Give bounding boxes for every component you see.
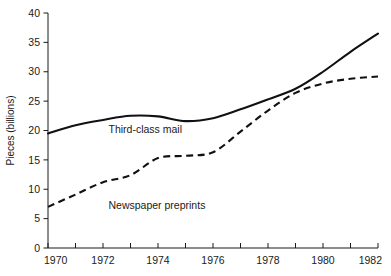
y-axis: 0510152025303540 <box>28 7 48 254</box>
series-label-2: Newspaper preprints <box>109 199 206 211</box>
series-line-2 <box>48 76 378 206</box>
y-tick-label: 35 <box>28 36 40 48</box>
x-tick-label: 1972 <box>91 254 115 266</box>
series-annotations: Third-class mailNewspaper preprints <box>109 123 206 211</box>
chart-canvas: 0510152025303540 19701972197419761978198… <box>0 0 391 276</box>
series-layer <box>48 34 378 207</box>
x-tick-label: 1976 <box>201 254 225 266</box>
y-tick-label: 10 <box>28 183 40 195</box>
x-tick-label: 1982 <box>359 254 383 266</box>
y-tick-label: 20 <box>28 124 40 136</box>
y-tick-label: 40 <box>28 7 40 19</box>
y-axis-title: Pieces (billions) <box>5 95 16 165</box>
y-tick-label: 15 <box>28 154 40 166</box>
y-tick-label: 5 <box>34 212 40 224</box>
x-tick-label: 1978 <box>256 254 280 266</box>
x-tick-label: 1970 <box>44 254 68 266</box>
y-tick-label: 25 <box>28 95 40 107</box>
line-chart: 0510152025303540 19701972197419761978198… <box>0 0 391 276</box>
x-tick-label: 1980 <box>311 254 335 266</box>
y-tick-label: 0 <box>34 242 40 254</box>
series-label-1: Third-class mail <box>109 123 183 135</box>
y-tick-label: 30 <box>28 65 40 77</box>
x-axis: 1970197219741976197819801982 <box>44 243 382 266</box>
x-tick-label: 1974 <box>146 254 170 266</box>
series-line-1 <box>48 34 378 134</box>
